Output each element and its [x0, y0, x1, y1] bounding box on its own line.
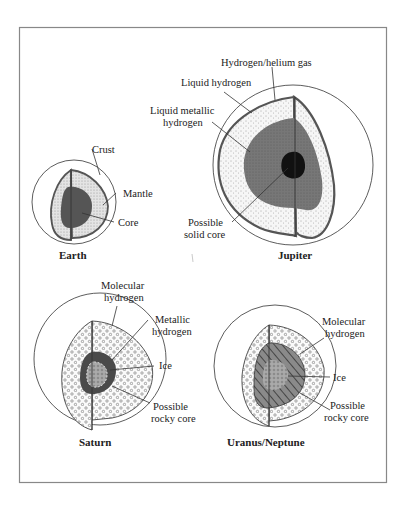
saturn-label-molecular: Molecular [101, 280, 145, 291]
saturn-label-metallic: Metallic [155, 314, 190, 325]
planet-interiors-diagram: Crust Mantle Core Earth Hydrogen/helium … [0, 0, 402, 510]
jupiter-title: Jupiter [278, 249, 312, 261]
uranus-neptune-label-possible: Possible [330, 400, 365, 411]
saturn-label-ice: Ice [159, 360, 172, 371]
jupiter-label-hydrogen-helium-gas: Hydrogen/helium gas [221, 57, 312, 68]
earth-title: Earth [59, 249, 87, 261]
jupiter-label-liquid-metallic: Liquid metallic [150, 105, 215, 116]
uranus-neptune-label-hydrogen: hydrogen [325, 328, 365, 339]
saturn-label-possible: Possible [153, 401, 188, 412]
jupiter-label-solid-core: solid core [184, 229, 225, 240]
saturn-label-molecular-hydrogen: hydrogen [104, 292, 144, 303]
uranus-neptune-label-ice: Ice [333, 372, 346, 383]
saturn-label-metallic-hydrogen: hydrogen [152, 326, 192, 337]
jupiter-label-possible: Possible [188, 217, 223, 228]
uranus-neptune-label-molecular: Molecular [322, 316, 366, 327]
earth-label-crust: Crust [92, 144, 115, 155]
uranus-neptune-title: Uranus/Neptune [227, 436, 305, 448]
jupiter-label-hydrogen: hydrogen [163, 117, 203, 128]
jupiter-label-liquid-hydrogen: Liquid hydrogen [181, 77, 252, 88]
earth-label-mantle: Mantle [123, 188, 153, 199]
earth-label-core: Core [118, 217, 139, 228]
uranus-neptune-label-rocky-core: rocky core [324, 412, 369, 423]
saturn-title: Saturn [79, 436, 111, 448]
saturn-label-rocky-core: rocky core [151, 413, 196, 424]
